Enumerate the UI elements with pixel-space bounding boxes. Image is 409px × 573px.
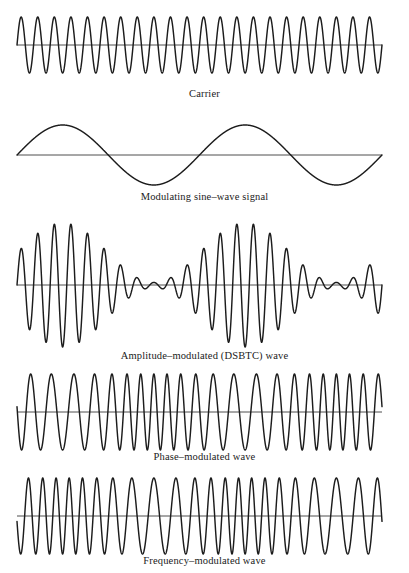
caption-phase-modulated: Phase–modulated wave <box>0 451 409 462</box>
modulation-waveforms-figure: Carrier Modulating sine–wave signal Ampl… <box>0 0 409 573</box>
frequency-modulated-waveform-plot <box>0 474 409 560</box>
caption-amplitude-modulated: Amplitude–modulated (DSBTC) wave <box>0 350 409 361</box>
panel-carrier: Carrier <box>0 0 409 86</box>
caption-carrier: Carrier <box>0 88 409 99</box>
carrier-waveform-plot <box>0 0 409 86</box>
amplitude-modulated-waveform-plot <box>0 218 409 353</box>
caption-frequency-modulated: Frequency–modulated wave <box>0 555 409 566</box>
panel-phase-modulated: Phase–modulated wave <box>0 370 409 456</box>
panel-frequency-modulated: Frequency–modulated wave <box>0 474 409 560</box>
phase-modulated-waveform-plot <box>0 370 409 456</box>
caption-modulating-signal: Modulating sine–wave signal <box>0 191 409 202</box>
modulating-signal-waveform-plot <box>0 113 409 189</box>
panel-modulating-signal: Modulating sine–wave signal <box>0 113 409 189</box>
panel-amplitude-modulated: Amplitude–modulated (DSBTC) wave <box>0 218 409 353</box>
amplitude-modulated-dsbtc-wave-curve <box>17 224 382 347</box>
